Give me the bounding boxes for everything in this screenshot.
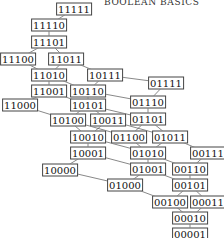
lattice-node: 10000 [42,164,78,177]
lattice-node: 10011 [90,114,126,127]
lattice-node: 11011 [48,53,84,66]
lattice-node: 10111 [87,69,123,82]
lattice-node: 10001 [70,147,106,160]
lattice-node: 10101 [70,99,106,112]
lattice-node: 00011 [190,196,224,209]
lattice-node: 01001 [130,163,166,176]
lattice-node: 11111 [56,3,92,16]
lattice-node: 11001 [31,85,67,98]
lattice-node: 11101 [31,36,67,49]
lattice-node: 01111 [148,77,184,90]
lattice-node: 00101 [172,179,208,192]
lattice-node: 01110 [130,96,166,109]
lattice-node: 00111 [190,147,224,160]
lattice-node: 10110 [70,85,106,98]
lattice-node: 01011 [152,131,188,144]
lattice-node: 01010 [130,147,166,160]
lattice-node: 01100 [111,131,147,144]
lattice-node: 11000 [2,99,38,112]
lattice-node: 00010 [172,212,208,225]
lattice-node: 00110 [172,163,208,176]
lattice-node: 00001 [172,228,208,239]
lattice-node: 01000 [107,179,143,192]
lattice-node: 10100 [50,114,86,127]
lattice-node: 10010 [70,131,106,144]
lattice-node: 11110 [31,19,67,32]
lattice-node: 01101 [130,113,166,126]
lattice-node: 11010 [31,69,67,82]
lattice-node: 00100 [152,196,188,209]
lattice-node: 11100 [0,53,36,66]
